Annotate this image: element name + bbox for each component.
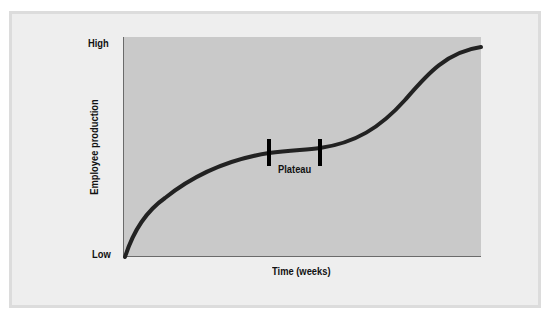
y-axis-title: Employee production xyxy=(88,99,100,195)
x-axis-title: Time (weeks) xyxy=(272,265,331,277)
production-line xyxy=(125,47,481,257)
plateau-label: Plateau xyxy=(278,163,311,175)
y-high-label: High xyxy=(88,37,109,49)
y-low-label: Low xyxy=(92,248,111,260)
